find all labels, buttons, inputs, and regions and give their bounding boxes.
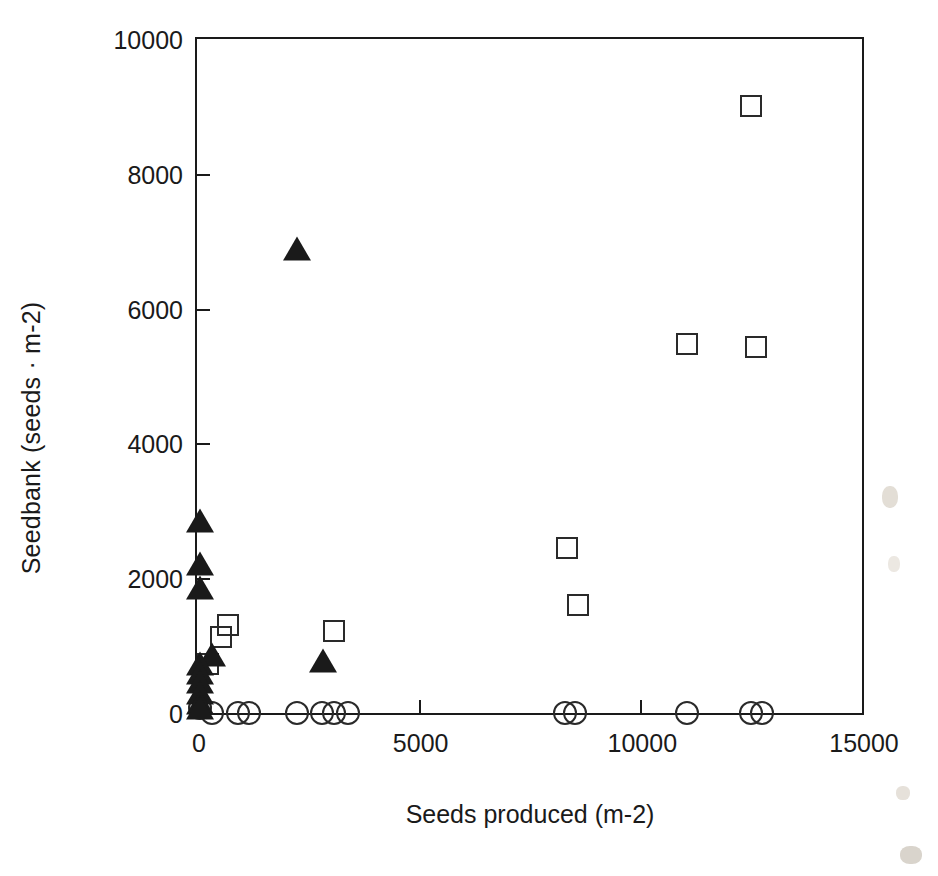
data-point-triangle	[186, 696, 214, 720]
data-point-circle	[563, 701, 587, 725]
data-point-circle	[237, 701, 261, 725]
y-axis-tick-label: 4000	[127, 430, 183, 459]
scan-artifact-1	[882, 486, 898, 508]
data-point-circle	[336, 701, 360, 725]
y-axis-tick-label: 2000	[127, 565, 183, 594]
x-axis-tick: 10000	[640, 700, 642, 713]
y-axis-tick: 4000	[197, 443, 210, 445]
x-axis-title: Seeds produced (m-2)	[195, 800, 865, 829]
data-point-square	[556, 537, 578, 559]
data-point-square	[745, 336, 767, 358]
data-point-square	[676, 333, 698, 355]
x-axis-tick-label: 10000	[608, 729, 678, 758]
scan-artifact-3	[896, 786, 910, 800]
data-point-square	[323, 620, 345, 642]
data-point-circle	[750, 701, 774, 725]
data-point-triangle	[186, 509, 214, 533]
x-axis-tick-label: 15000	[829, 729, 899, 758]
y-axis-tick-label: 10000	[113, 26, 183, 55]
figure-scatter-seedbank: Seedbank (seeds · m-2) 02000400060008000…	[0, 0, 938, 876]
data-point-circle	[285, 701, 309, 725]
y-axis-tick: 10000	[197, 39, 210, 41]
y-axis-tick: 6000	[197, 309, 210, 311]
x-axis-tick: 15000	[862, 700, 864, 713]
data-point-circle	[675, 701, 699, 725]
data-point-triangle	[283, 237, 311, 261]
y-axis-tick-label: 6000	[127, 296, 183, 325]
y-axis-tick-label: 0	[169, 700, 183, 729]
data-point-square	[567, 594, 589, 616]
data-point-square	[740, 95, 762, 117]
x-axis-tick-label: 0	[192, 729, 206, 758]
y-axis-tick-label: 8000	[127, 161, 183, 190]
y-axis-title: Seedbank (seeds · m-2)	[19, 0, 46, 876]
data-point-triangle	[186, 575, 214, 599]
scan-artifact-2	[888, 556, 900, 572]
plot-area: 0200040006000800010000050001000015000	[195, 37, 864, 715]
data-point-triangle	[309, 649, 337, 673]
x-axis-tick: 5000	[419, 700, 421, 713]
page-caption-fragment	[0, 852, 938, 876]
data-point-triangle	[186, 552, 214, 576]
x-axis-tick-label: 5000	[393, 729, 449, 758]
y-axis-tick: 8000	[197, 174, 210, 176]
